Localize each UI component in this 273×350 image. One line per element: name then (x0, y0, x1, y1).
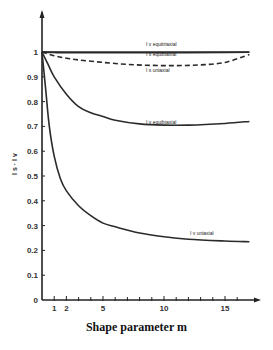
y-axis-label: I s · I v (11, 149, 18, 179)
y-tick-label: 0.5 (27, 172, 39, 181)
x-tick-label: 10 (160, 304, 169, 313)
y-axis-arrow-icon (40, 10, 45, 18)
y-tick-label: 0.6 (27, 147, 39, 156)
curve-label-curve-s-uniaxial: I s uniaxial (146, 67, 170, 73)
x-tick-label: 1 (52, 304, 57, 313)
curve-label-curve-s-equibiaxial: I s equibiaxial (146, 51, 176, 57)
series-line-4 (42, 52, 249, 242)
y-tick-label: 0.3 (27, 222, 39, 231)
curve-label-curve-equitriaxial: I v equitriaxial (146, 41, 177, 47)
y-tick-label: 0.1 (27, 271, 39, 280)
y-tick-label: 1 (34, 48, 39, 57)
x-axis-label: Shape parameter m (0, 320, 273, 335)
curve-label-curve-v-uniaxial: I v uniaxial (190, 230, 214, 236)
series-group (42, 52, 249, 242)
y-tick-label: 0.8 (27, 98, 39, 107)
curve-labels: I v equitriaxialI s equibiaxialI s uniax… (146, 41, 214, 236)
y-tick-label: 0.9 (27, 73, 39, 82)
y-tick-label: 0.2 (27, 246, 39, 255)
x-tick-label: 2 (64, 304, 69, 313)
y-tick-label: 0 (34, 296, 39, 305)
axes: 00.10.20.30.40.50.60.70.80.911251015 (27, 10, 261, 313)
x-tick-label: 15 (221, 304, 230, 313)
curve-label-curve-v-equibiaxial: I v equibiaxial (146, 119, 176, 125)
x-axis-arrow-icon (254, 298, 261, 303)
y-tick-label: 0.7 (27, 122, 39, 131)
y-tick-label: 0.4 (27, 197, 39, 206)
chart-plot: 00.10.20.30.40.50.60.70.80.911251015 I v… (0, 0, 273, 350)
x-tick-label: 5 (101, 304, 106, 313)
